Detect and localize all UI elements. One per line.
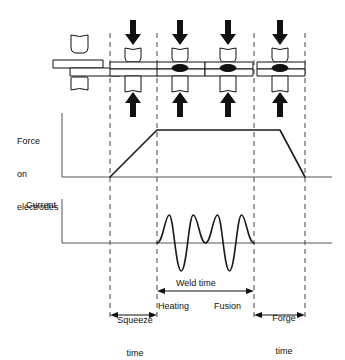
force-axis-label-line1: Force — [17, 136, 59, 147]
weld-nugget-5 — [272, 65, 288, 72]
forge-time-label-line1: Forge — [267, 313, 301, 324]
squeeze-time-label-line1: Squeeze — [113, 315, 157, 326]
lower-electrode-3 — [172, 76, 188, 92]
forge-time-label-line2: time — [267, 346, 301, 357]
upper-electrode-2 — [125, 48, 141, 62]
lower-sheet-2 — [110, 69, 158, 76]
electrode-stage-3 — [157, 20, 205, 117]
force-arrow-up-4 — [220, 92, 236, 117]
weld-nugget-3 — [172, 65, 188, 72]
squeeze-time-label-line2: time — [113, 348, 157, 359]
force-arrow-up-2 — [125, 92, 141, 117]
electrode-stage-5 — [257, 20, 305, 117]
force-arrow-up-5 — [272, 92, 288, 117]
upper-sheet-1 — [53, 60, 103, 68]
forge-time-label: Forge time — [267, 291, 301, 360]
force-axis-label: Force on electrodes — [17, 114, 59, 235]
fusion-label: Fusion — [214, 301, 241, 312]
force-arrow-up-3 — [172, 92, 188, 117]
upper-electrode-3 — [172, 48, 188, 62]
current-plot — [62, 199, 332, 271]
force-arrow-down-4 — [220, 20, 236, 45]
lower-electrode-2 — [125, 76, 141, 92]
electrode-stage-4 — [205, 20, 253, 117]
weld-time-label: Weld time — [176, 278, 216, 289]
upper-electrode-4 — [220, 48, 236, 62]
lower-electrode-5 — [272, 76, 288, 92]
upper-electrode-1 — [71, 35, 88, 53]
force-arrow-down-5 — [272, 20, 288, 45]
squeeze-time-label: Squeeze time — [113, 293, 157, 360]
electrode-stage-2 — [110, 20, 158, 117]
force-curve — [110, 130, 305, 177]
upper-electrode-5 — [272, 48, 288, 62]
force-plot — [62, 113, 332, 177]
lower-electrode-1 — [71, 77, 88, 90]
weld-nugget-4 — [220, 65, 236, 72]
force-axis-label-line2: on — [17, 169, 59, 180]
current-axis-label: Current — [26, 200, 56, 211]
force-arrow-down-3 — [172, 20, 188, 45]
upper-sheet-2 — [110, 62, 158, 69]
force-arrow-down-2 — [125, 20, 141, 45]
heating-label: Heating — [158, 301, 189, 312]
lower-electrode-4 — [220, 76, 236, 92]
